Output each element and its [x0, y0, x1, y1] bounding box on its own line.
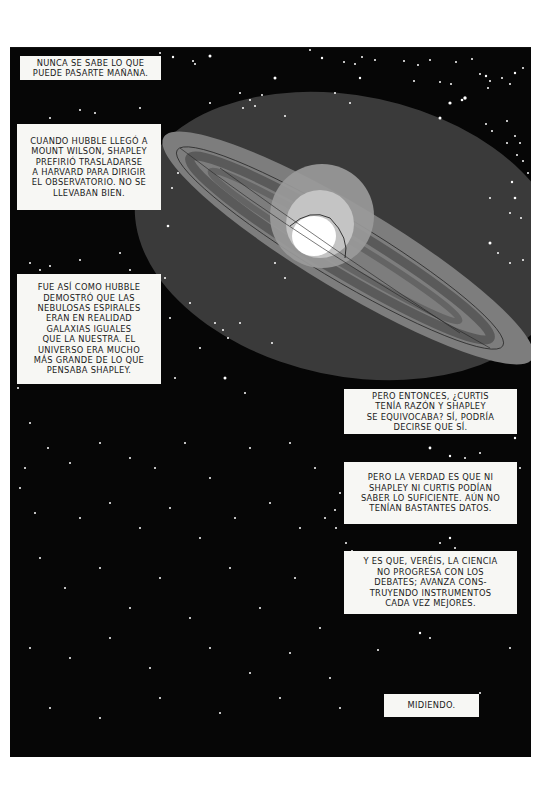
- caption-box-2: CUANDO HUBBLE LLEGÓ A MOUNT WILSON, SHAP…: [17, 124, 161, 210]
- caption-box-3: FUE ASÍ COMO HUBBLE DEMOSTRÓ QUE LAS NEB…: [17, 274, 161, 384]
- caption-box-7: MIDIENDO.: [384, 694, 479, 717]
- caption-box-5: PERO LA VERDAD ES QUE NI SHAPLEY NI CURT…: [344, 462, 517, 524]
- caption-box-1: NUNCA SE SABE LO QUE PUEDE PASARTE MAÑAN…: [20, 56, 161, 80]
- comic-panel: NUNCA SE SABE LO QUE PUEDE PASARTE MAÑAN…: [10, 47, 531, 757]
- galaxy-icon: [108, 54, 531, 419]
- caption-box-6: Y ES QUE, VERÉIS, LA CIENCIA NO PROGRESA…: [344, 551, 517, 614]
- caption-box-4: PERO ENTONCES, ¿CURTIS TENÍA RAZÓN Y SHA…: [344, 389, 517, 434]
